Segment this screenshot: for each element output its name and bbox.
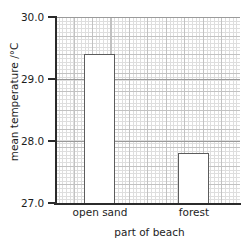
x-tick-label-open-sand: open sand	[73, 206, 128, 218]
bar-chart: 30.0 29.0 28.0 27.0 open sand forest par…	[0, 0, 247, 247]
x-axis-title: part of beach	[0, 226, 247, 238]
bar-open-sand	[84, 54, 115, 203]
x-tick-label-forest: forest	[179, 206, 209, 218]
plot-area	[55, 17, 240, 203]
y-axis-line	[55, 16, 57, 204]
x-axis-line	[54, 203, 241, 205]
value-line-30	[55, 17, 240, 18]
y-tick-label-27: 27.0	[2, 197, 44, 209]
value-line-28	[55, 141, 240, 142]
y-tick-29	[48, 78, 56, 80]
y-tick-28	[48, 140, 56, 142]
value-line-29	[55, 79, 240, 80]
y-tick-27	[48, 202, 56, 204]
bar-forest	[178, 153, 209, 203]
y-axis-title: mean temperature /°C	[8, 14, 20, 190]
y-tick-30	[48, 16, 56, 18]
major-gridlines	[55, 17, 240, 203]
